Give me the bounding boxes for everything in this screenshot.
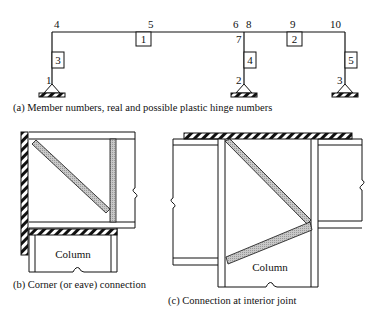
caption-c: (c) Connection at interior joint xyxy=(168,295,296,307)
svg-text:2: 2 xyxy=(292,33,298,45)
diagonal-stiffener xyxy=(32,140,110,213)
svg-text:5: 5 xyxy=(348,54,354,66)
svg-text:1: 1 xyxy=(46,74,52,86)
svg-text:9: 9 xyxy=(290,18,296,30)
member-box: 4 xyxy=(244,52,256,68)
diagonal-stiffener xyxy=(225,139,311,224)
svg-text:5: 5 xyxy=(148,18,154,30)
svg-text:8: 8 xyxy=(246,18,252,30)
svg-text:4: 4 xyxy=(247,54,253,66)
svg-text:7: 7 xyxy=(236,33,242,45)
svg-text:1: 1 xyxy=(141,33,147,45)
column-label: Column xyxy=(252,261,288,273)
svg-text:3: 3 xyxy=(55,54,61,66)
member-box: 3 xyxy=(52,52,64,68)
diagonal-stiffener xyxy=(226,222,312,264)
caption-a: (a) Member numbers, real and possible pl… xyxy=(13,102,272,114)
svg-text:6: 6 xyxy=(233,18,239,30)
hinge-labels: 1 2 3 4 5 6 7 8 9 10 xyxy=(46,18,343,86)
svg-text:3: 3 xyxy=(337,74,343,86)
caption-b: (b) Corner (or eave) connection xyxy=(13,279,147,291)
svg-text:2: 2 xyxy=(236,74,242,86)
pin-support-icon xyxy=(231,84,257,97)
column-label: Column xyxy=(55,248,91,260)
member-box: 5 xyxy=(345,52,357,68)
svg-text:10: 10 xyxy=(330,18,342,30)
column-cap-plate xyxy=(29,229,117,235)
stiffener xyxy=(110,139,116,222)
member-box: 1 xyxy=(136,32,151,46)
diagram-canvas: 1 2 3 4 5 1 2 3 4 5 6 7 8 9 10 (a) Membe… xyxy=(0,0,380,321)
end-plate xyxy=(21,132,28,255)
pin-support-icon xyxy=(332,84,358,97)
top-plate xyxy=(184,133,352,139)
pin-support-icon xyxy=(39,84,65,97)
svg-text:4: 4 xyxy=(54,18,60,30)
member-box: 2 xyxy=(287,32,302,46)
